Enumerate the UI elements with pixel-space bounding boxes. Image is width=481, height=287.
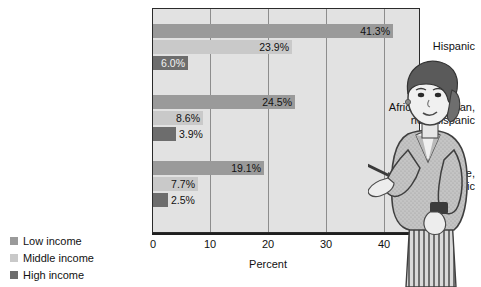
x-tick-10: 10 bbox=[204, 238, 216, 250]
earring bbox=[405, 99, 410, 104]
bar-white-high bbox=[153, 193, 168, 207]
legend-item-middle-income: Middle income bbox=[10, 249, 94, 266]
x-axis-title: Percent bbox=[249, 258, 287, 270]
hand-right bbox=[424, 212, 446, 235]
legend-label: Middle income bbox=[23, 252, 94, 264]
eye-left bbox=[418, 93, 424, 97]
bar-value-hispanic-low: 41.3% bbox=[293, 24, 393, 38]
bar-value-african-american-low: 24.5% bbox=[195, 95, 295, 109]
x-tick-30: 30 bbox=[320, 238, 332, 250]
legend: Low income Middle income High income bbox=[10, 232, 94, 283]
chart-figure: Hispanic 41.3% 23.9% 6.0% African Americ… bbox=[0, 0, 481, 287]
gridline-30 bbox=[326, 9, 327, 232]
x-tick-20: 20 bbox=[262, 238, 274, 250]
legend-label: High income bbox=[23, 269, 84, 281]
legend-item-low-income: Low income bbox=[10, 232, 94, 249]
woman-with-pointer-svg bbox=[368, 50, 481, 287]
bar-african-american-high bbox=[153, 127, 176, 141]
legend-swatch-icon bbox=[10, 271, 18, 279]
x-tick-0: 0 bbox=[150, 238, 156, 250]
bar-value-white-high: 2.5% bbox=[170, 193, 210, 207]
bar-value-hispanic-high: 6.0% bbox=[153, 56, 188, 70]
eye-right bbox=[435, 93, 441, 97]
bar-value-hispanic-middle: 23.9% bbox=[192, 40, 292, 54]
bar-value-white-middle: 7.7% bbox=[98, 177, 198, 191]
bar-value-african-american-middle: 8.6% bbox=[103, 111, 203, 125]
bar-value-african-american-high: 3.9% bbox=[178, 127, 218, 141]
legend-swatch-icon bbox=[10, 254, 18, 262]
legend-swatch-icon bbox=[10, 237, 18, 245]
bar-value-white-low: 19.1% bbox=[164, 161, 264, 175]
legend-label: Low income bbox=[23, 235, 82, 247]
woman-with-pointer-illustration bbox=[368, 50, 481, 287]
legend-item-high-income: High income bbox=[10, 266, 94, 283]
